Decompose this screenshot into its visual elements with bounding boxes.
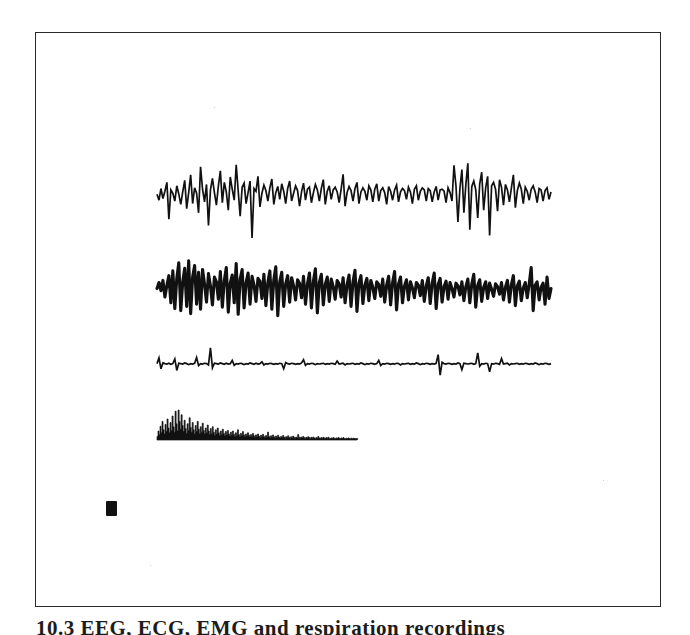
figure-caption: 10.3 EEG, ECG, EMG and respiration recor…: [36, 616, 656, 635]
scan-speckle: [603, 480, 604, 481]
figure-frame: [35, 32, 661, 607]
scan-speckle: [470, 128, 471, 129]
figure-page: 10.3 EEG, ECG, EMG and respiration recor…: [0, 0, 690, 635]
scan-speckle: [214, 107, 215, 108]
scale-bar-mark: [106, 501, 117, 516]
scan-speckle: [150, 565, 151, 566]
